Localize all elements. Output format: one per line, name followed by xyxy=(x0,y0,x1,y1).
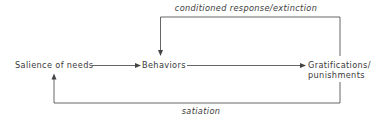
arrowhead-icon xyxy=(300,63,306,68)
arrowhead-icon xyxy=(158,50,163,56)
arrowhead-icon xyxy=(52,74,57,80)
feedback-loop-top xyxy=(158,17,340,56)
label-satiation: satiation xyxy=(182,106,221,116)
arrow-behaviors-to-gratifications xyxy=(187,63,306,68)
node-behaviors: Behaviors xyxy=(142,60,186,70)
arrowhead-icon xyxy=(135,63,141,68)
needs-gratification-diagram: Salience of needs Behaviors Gratificatio… xyxy=(0,0,385,123)
arrow-salience-to-behaviors xyxy=(92,63,141,68)
node-gratifications-line1: Gratifications/ xyxy=(308,60,371,70)
node-salience-of-needs: Salience of needs xyxy=(15,60,93,70)
feedback-loop-bottom xyxy=(52,74,341,104)
node-gratifications-line2: punishments xyxy=(308,70,365,80)
loop-line xyxy=(161,17,341,56)
loop-line xyxy=(54,78,340,103)
label-conditioned-response-extinction: conditioned response/extinction xyxy=(175,3,317,13)
